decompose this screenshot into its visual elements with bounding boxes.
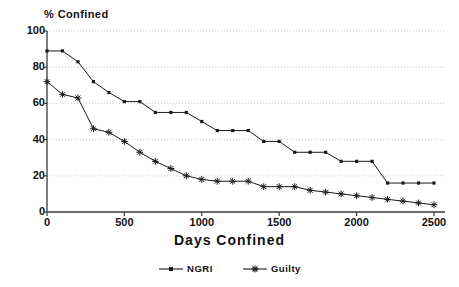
data-point-marker [293, 151, 296, 154]
series-ngri [45, 49, 435, 184]
data-point-marker [154, 111, 157, 114]
legend-label-guilty: Guilty [271, 263, 301, 274]
data-point-marker [106, 129, 113, 136]
data-point-marker [291, 183, 298, 190]
data-point-marker [369, 194, 376, 201]
data-point-marker [167, 165, 174, 172]
series-line-guilty [47, 82, 434, 205]
data-point-marker [214, 178, 221, 185]
data-point-marker [400, 198, 407, 205]
data-point-marker [324, 151, 327, 154]
data-point-marker [90, 125, 97, 132]
data-point-marker [59, 91, 66, 98]
chart-legend: NGRI Guilty [0, 262, 459, 275]
x-axis-title: Days Confined [0, 232, 459, 248]
data-point-marker [121, 138, 128, 145]
legend-item-ngri: NGRI [158, 262, 213, 274]
data-point-marker [417, 181, 420, 184]
data-point-marker [260, 183, 267, 190]
data-point-marker [432, 181, 435, 184]
data-point-marker [136, 149, 143, 156]
data-point-marker [386, 181, 389, 184]
data-point-marker [355, 160, 358, 163]
data-point-marker [340, 160, 343, 163]
survival-curve-chart: % Confined 100806040200 0500100015002000… [0, 0, 459, 287]
data-point-marker [276, 183, 283, 190]
data-point-marker [415, 200, 422, 207]
data-point-marker [200, 120, 203, 123]
data-point-marker [75, 95, 82, 102]
data-point-marker [44, 78, 51, 85]
data-point-marker [152, 158, 159, 165]
data-point-marker [107, 91, 110, 94]
data-point-marker [431, 201, 438, 208]
data-point-marker [307, 187, 314, 194]
data-point-marker [198, 176, 205, 183]
data-point-marker [262, 140, 265, 143]
data-point-marker [231, 129, 234, 132]
legend-label-ngri: NGRI [187, 263, 213, 274]
data-point-marker [229, 178, 236, 185]
data-point-marker [216, 129, 219, 132]
data-point-marker [45, 49, 48, 52]
data-point-marker [322, 189, 329, 196]
data-point-marker [138, 100, 141, 103]
data-point-marker [309, 151, 312, 154]
data-point-marker [338, 191, 345, 198]
data-point-marker [370, 160, 373, 163]
data-point-marker [61, 49, 64, 52]
series-guilty [44, 78, 438, 208]
data-point-marker [185, 111, 188, 114]
data-point-marker [76, 60, 79, 63]
series-line-ngri [47, 51, 434, 183]
data-point-marker [401, 181, 404, 184]
legend-item-guilty: Guilty [242, 262, 301, 274]
data-point-marker [183, 172, 190, 179]
data-point-marker [353, 192, 360, 199]
data-point-marker [384, 196, 391, 203]
data-point-marker [278, 140, 281, 143]
data-point-marker [245, 178, 252, 185]
legend-marker-square-dot [158, 264, 184, 274]
data-point-marker [92, 80, 95, 83]
data-point-marker [123, 100, 126, 103]
data-point-marker [247, 129, 250, 132]
legend-marker-asterisk [242, 263, 268, 275]
data-point-marker [169, 111, 172, 114]
